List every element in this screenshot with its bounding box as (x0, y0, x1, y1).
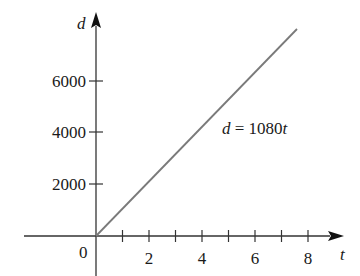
x-tick-label-4: 4 (198, 249, 207, 268)
equation-annotation: d = 1080t (222, 119, 289, 138)
x-axis-arrow-icon (328, 231, 344, 241)
y-axis-arrow-icon (91, 12, 101, 28)
x-tick-label-2: 2 (145, 249, 154, 268)
x-tick-label-6: 6 (251, 249, 260, 268)
x-tick-label-8: 8 (304, 249, 313, 268)
chart: d t 0 2 4 6 8 2000 4000 6000 d = 1080t (0, 0, 360, 276)
y-tick-label-2000: 2000 (52, 175, 86, 194)
y-tick-label-6000: 6000 (52, 72, 86, 91)
y-tick-label-4000: 4000 (52, 123, 86, 142)
x-axis-label: t (340, 245, 346, 264)
y-axis-label: d (77, 14, 86, 33)
origin-label: 0 (79, 243, 88, 262)
